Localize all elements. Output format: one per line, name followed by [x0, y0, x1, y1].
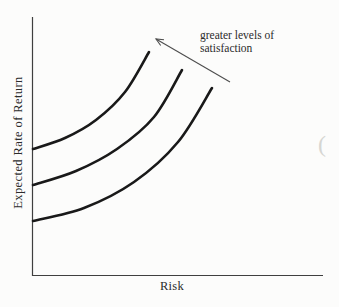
indifference-curve-2	[33, 70, 182, 185]
curves-group	[33, 52, 212, 221]
x-axis-label: Risk	[130, 279, 214, 294]
y-axis-label: Expected Rate of Return	[11, 53, 28, 233]
arrow-head	[156, 39, 164, 46]
risk-return-indifference-chart: Expected Rate of Return Risk greater lev…	[0, 0, 339, 307]
indifference-curve-3	[33, 88, 212, 221]
scan-artifact: (	[318, 131, 326, 158]
annotation-line-1: greater levels of	[200, 29, 310, 42]
indifference-curve-1	[33, 52, 149, 149]
annotation-line-2: satisfaction	[200, 42, 310, 55]
satisfaction-annotation: greater levels of satisfaction	[200, 29, 310, 55]
